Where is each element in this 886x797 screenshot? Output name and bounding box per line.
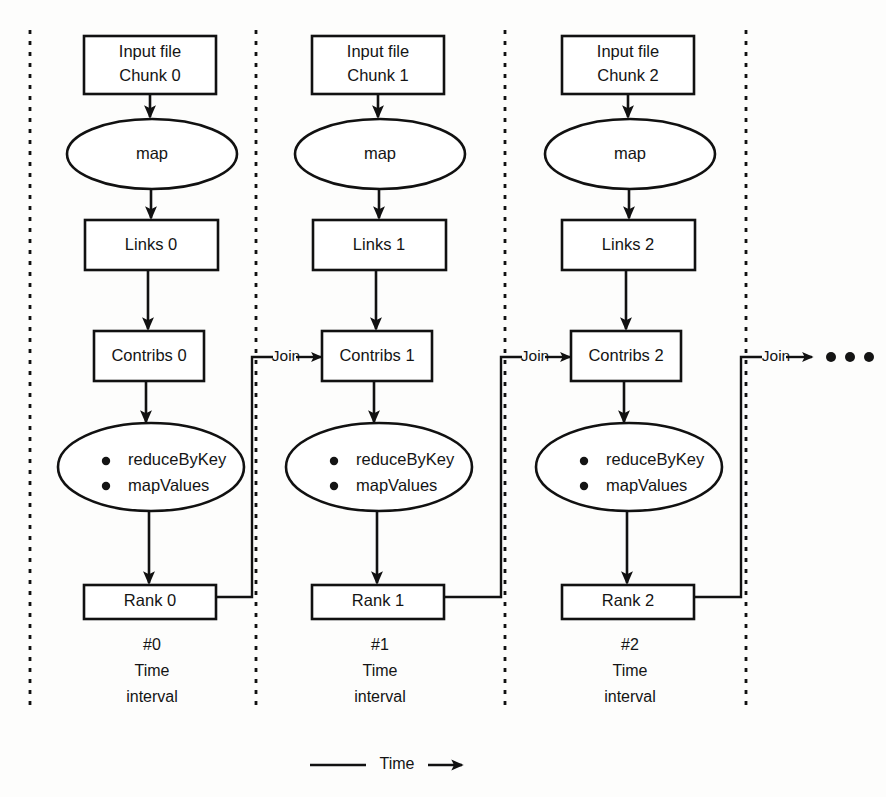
ellipsis-dot-1 — [826, 352, 836, 362]
rank-label-0: Rank 0 — [124, 591, 176, 609]
interval-caption-line3-0: interval — [126, 688, 178, 705]
ellipsis-dot-2 — [845, 352, 855, 362]
reduce-label-line1-1: reduceByKey — [356, 450, 455, 468]
bullet-icon-mapvalues-1 — [330, 482, 338, 490]
links-label-2: Links 2 — [602, 235, 654, 253]
bullet-icon-mapvalues-0 — [102, 482, 110, 490]
join-label-0: Join — [272, 347, 300, 364]
time-axis-label: Time — [380, 755, 415, 772]
reduce-label-line2-1: mapValues — [356, 476, 437, 494]
rank-label-2: Rank 2 — [602, 591, 654, 609]
contribs-label-2: Contribs 2 — [588, 346, 663, 364]
join-label-1: Join — [521, 347, 549, 364]
time-axis: Time — [310, 755, 462, 772]
input-file-label-line1-2: Input file — [597, 42, 659, 60]
interval-column-2: Input file Chunk 2 map Links 2 Contribs … — [536, 36, 722, 705]
diagram-canvas: Input file Chunk 0 map Links 0 Contribs … — [0, 0, 886, 797]
contribs-label-1: Contribs 1 — [339, 346, 414, 364]
contribs-label-0: Contribs 0 — [111, 346, 186, 364]
interval-caption-line3-1: interval — [354, 688, 406, 705]
interval-caption-line1-2: #2 — [621, 636, 639, 653]
continuation-ellipsis — [826, 352, 874, 362]
input-file-label-line2-2: Chunk 2 — [597, 66, 658, 84]
interval-caption-line3-2: interval — [604, 688, 656, 705]
interval-caption-line2-0: Time — [135, 662, 170, 679]
map-label-1: map — [364, 144, 396, 162]
input-file-label-line2-1: Chunk 1 — [347, 66, 408, 84]
bullet-icon-reduce-2 — [580, 457, 588, 465]
interval-caption-line1-1: #1 — [371, 636, 389, 653]
input-file-label-line2-0: Chunk 0 — [119, 66, 180, 84]
interval-caption-line1-0: #0 — [143, 636, 161, 653]
links-label-0: Links 0 — [125, 235, 177, 253]
interval-column-1: Input file Chunk 1 map Links 1 Contribs … — [286, 36, 472, 705]
links-label-1: Links 1 — [353, 235, 405, 253]
join-label-2: Join — [762, 347, 790, 364]
reduce-label-line2-2: mapValues — [606, 476, 687, 494]
input-file-label-line1-0: Input file — [119, 42, 181, 60]
rank-label-1: Rank 1 — [352, 591, 404, 609]
interval-caption-line2-1: Time — [363, 662, 398, 679]
reduce-label-line2-0: mapValues — [128, 476, 209, 494]
reduce-label-line1-0: reduceByKey — [128, 450, 227, 468]
bullet-icon-reduce-1 — [330, 457, 338, 465]
map-label-2: map — [614, 144, 646, 162]
interval-column-0: Input file Chunk 0 map Links 0 Contribs … — [58, 36, 244, 705]
input-file-label-line1-1: Input file — [347, 42, 409, 60]
bullet-icon-reduce-0 — [102, 457, 110, 465]
reduce-label-line1-2: reduceByKey — [606, 450, 705, 468]
ellipsis-dot-3 — [864, 352, 874, 362]
interval-caption-line2-2: Time — [613, 662, 648, 679]
bullet-icon-mapvalues-2 — [580, 482, 588, 490]
diagram-svg: Input file Chunk 0 map Links 0 Contribs … — [0, 0, 886, 797]
map-label-0: map — [136, 144, 168, 162]
